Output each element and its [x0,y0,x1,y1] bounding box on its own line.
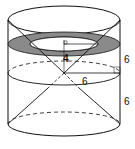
lower-height-label: 6 [124,96,130,107]
upper-height-label: 6 [124,54,130,65]
lower-cone-right-hidden [64,73,79,88]
middle-ellipse-front [8,73,120,85]
right-angle-mark [114,67,120,73]
bottom-ellipse-back [8,112,120,124]
lower-cone-right [79,88,120,124]
bottom-ellipse-front [8,124,120,136]
top-ellipse [8,6,120,34]
cylinder-diagram: 4 6 6 6 [0,0,135,149]
lower-cone-left-hidden [48,73,64,88]
radius-label: 6 [82,76,88,87]
inner-radius-label: 4 [63,53,69,64]
